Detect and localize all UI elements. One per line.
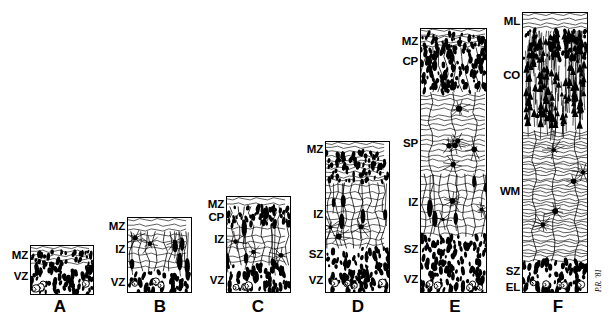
zone-label-b-iz: IZ — [115, 244, 125, 256]
zone-label-e-cp: CP — [402, 56, 418, 68]
zone-label-c-cp: CP — [208, 212, 224, 224]
zone-label-c-mz: MZ — [208, 199, 224, 211]
zone-label-f-co: CO — [503, 70, 520, 82]
cortical-development-figure: MZVZAMZIZVZBMZCPIZVZCMZIZSZVZDMZCPSPIZSZ… — [0, 0, 609, 319]
zone-label-f-wm: WM — [500, 186, 520, 198]
panel-column-b — [127, 217, 192, 293]
zone-label-c-iz: IZ — [214, 234, 224, 246]
panel-letter-a: A — [54, 298, 66, 315]
zone-label-d-sz: SZ — [309, 249, 323, 261]
zone-label-e-vz: VZ — [404, 274, 418, 286]
panel-letter-d: D — [352, 298, 364, 315]
zone-label-e-sp: SP — [403, 138, 418, 150]
zone-label-e-mz: MZ — [402, 36, 418, 48]
zone-label-d-mz: MZ — [307, 144, 323, 156]
zone-label-c-vz: VZ — [210, 275, 224, 287]
panel-column-f — [522, 12, 588, 293]
zone-label-d-vz: VZ — [309, 275, 323, 287]
artist-signature: P.R. '81 — [594, 269, 603, 292]
zone-label-a-mz: MZ — [12, 250, 28, 262]
zone-label-f-ml: ML — [504, 16, 520, 28]
zone-label-e-iz: IZ — [408, 197, 418, 209]
zone-label-e-sz: SZ — [404, 244, 418, 256]
panel-column-c — [226, 196, 291, 293]
zone-label-b-mz: MZ — [109, 221, 125, 233]
panel-column-d — [325, 141, 390, 293]
zone-label-f-sz: SZ — [506, 266, 520, 278]
panel-column-e — [420, 28, 487, 293]
panel-letter-c: C — [252, 298, 264, 315]
zone-label-a-vz: VZ — [14, 271, 28, 283]
zone-label-f-el: EL — [506, 282, 520, 294]
panel-letter-e: E — [449, 298, 460, 315]
panel-letter-b: B — [154, 298, 166, 315]
panel-column-a — [30, 245, 94, 295]
panel-letter-f: F — [553, 298, 563, 315]
zone-label-d-iz: IZ — [313, 209, 323, 221]
zone-label-b-vz: VZ — [111, 277, 125, 289]
